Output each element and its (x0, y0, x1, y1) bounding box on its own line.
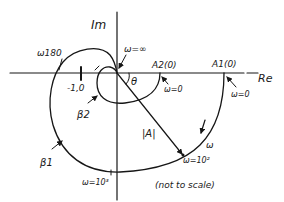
omega-zero-a1-arrow (227, 77, 236, 87)
critical-point-label: -1,0 (67, 83, 85, 93)
omega-direction-label: ω (206, 140, 214, 150)
a2-label: A2(0) (151, 60, 177, 70)
omega-infinity-label: ω=∞ (124, 44, 147, 54)
a1-label: A1(0) (211, 59, 237, 69)
beta2-pointer-arrow (88, 96, 97, 103)
omega-1e3-label: ω=10³ (82, 178, 109, 187)
omega-infinity-arrow (119, 55, 126, 68)
real-axis-label: Re (258, 72, 273, 85)
omega-zero-a2-label: ω=0 (164, 85, 183, 94)
magnitude-label: |A| (142, 128, 156, 140)
theta-label: θ (131, 76, 137, 87)
beta1-label: β1 (39, 157, 53, 168)
nyquist-diagram: Im Re -1,0 |A| θ ω=∞ A2(0) ω=0 A1(0) ω=0… (0, 0, 284, 202)
imaginary-axis-label: Im (91, 18, 106, 32)
not-to-scale-note: (not to scale) (155, 180, 215, 190)
beta1-pointer-arrow (52, 141, 62, 149)
omega-zero-a2-arrow (162, 77, 168, 84)
beta2-label: β2 (76, 109, 90, 120)
theta-arc (126, 73, 129, 84)
omega-zero-a1-label: ω=0 (231, 90, 250, 99)
omega-180-label: ω180 (37, 48, 62, 58)
inner-loop-arrow (95, 66, 99, 70)
omega-1e2-label: ω=10² (183, 156, 211, 165)
omega-direction-arrow (201, 120, 205, 133)
inner-curve-beta2 (97, 67, 160, 103)
